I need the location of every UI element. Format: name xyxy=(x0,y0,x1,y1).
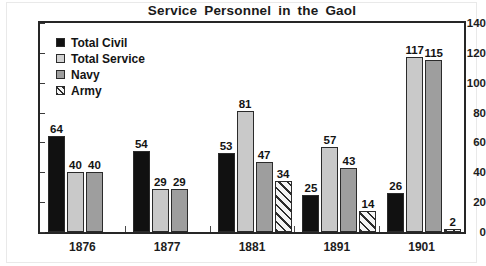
plot-area: 6440405429295381473425574314261171152 To… xyxy=(38,21,466,234)
bar-navy-1891: 43 xyxy=(340,168,357,232)
bar-value-label: 29 xyxy=(173,176,186,188)
y-axis-tick-mark xyxy=(40,172,45,173)
x-axis-category-label: 1901 xyxy=(408,240,435,254)
bar-navy-1901: 115 xyxy=(425,60,442,232)
bar-value-label: 53 xyxy=(220,140,233,152)
bar-navy-1876: 40 xyxy=(86,172,103,232)
y-axis-tick-mark xyxy=(40,142,45,143)
legend-item-navy: Navy xyxy=(56,67,145,82)
x-axis-separator xyxy=(210,226,211,232)
bar-army-1891: 14 xyxy=(359,211,376,232)
bar-value-label: 14 xyxy=(361,198,374,210)
bar-total-civil-1901: 26 xyxy=(387,193,404,232)
x-axis-separator xyxy=(379,226,380,232)
bar-value-label: 40 xyxy=(88,159,101,171)
y-axis-tick-mark xyxy=(40,53,45,54)
bar-total-civil-1891: 25 xyxy=(302,195,319,232)
x-axis-category-label: 1876 xyxy=(69,240,96,254)
bar-navy-1877: 29 xyxy=(171,189,188,232)
bar-value-label: 47 xyxy=(258,149,271,161)
bar-value-label: 57 xyxy=(323,134,336,146)
bar-value-label: 2 xyxy=(449,216,455,228)
legend-swatch-army xyxy=(56,86,65,95)
x-axis-category-label: 1891 xyxy=(323,240,350,254)
bar-value-label: 40 xyxy=(69,159,82,171)
legend-item-total-civil: Total Civil xyxy=(56,35,145,50)
bar-total-service-1881: 81 xyxy=(237,111,254,232)
bar-value-label: 26 xyxy=(389,180,402,192)
y-axis-tick-mark xyxy=(40,232,45,233)
x-axis-separator xyxy=(125,226,126,232)
bar-total-service-1901: 117 xyxy=(406,57,423,232)
bar-value-label: 29 xyxy=(154,176,167,188)
chart-title: Service Personnel in the Gaol xyxy=(38,3,466,18)
chart-legend: Total CivilTotal ServiceNavyArmy xyxy=(56,35,145,99)
legend-item-total-service: Total Service xyxy=(56,51,145,66)
bar-value-label: 81 xyxy=(239,98,252,110)
y-axis-tick-mark xyxy=(40,113,45,114)
x-axis-category-label: 1877 xyxy=(154,240,181,254)
bar-value-label: 25 xyxy=(304,182,317,194)
legend-swatch-navy xyxy=(56,70,65,79)
legend-swatch-total-service xyxy=(56,54,65,63)
bar-value-label: 34 xyxy=(277,168,290,180)
y-axis-tick-mark xyxy=(40,23,45,24)
bar-value-label: 43 xyxy=(342,155,355,167)
legend-item-army: Army xyxy=(56,83,145,98)
plot-inner: 6440405429295381473425574314261171152 To… xyxy=(40,23,464,232)
bar-total-civil-1877: 54 xyxy=(133,151,150,232)
y-axis-tick-mark xyxy=(40,202,45,203)
bar-value-label: 117 xyxy=(405,44,424,56)
bar-value-label: 64 xyxy=(50,123,63,135)
bar-total-service-1891: 57 xyxy=(321,147,338,232)
bar-value-label: 115 xyxy=(424,47,443,59)
legend-swatch-total-civil xyxy=(56,38,65,47)
bar-total-civil-1881: 53 xyxy=(218,153,235,232)
bar-total-service-1877: 29 xyxy=(152,189,169,232)
legend-label: Navy xyxy=(71,68,100,82)
legend-label: Total Civil xyxy=(71,36,127,50)
bar-value-label: 54 xyxy=(135,138,148,150)
bar-army-1901: 2 xyxy=(444,229,461,232)
x-axis-category-label: 1881 xyxy=(239,240,266,254)
x-axis-separator xyxy=(294,226,295,232)
y-axis-tick-mark xyxy=(40,83,45,84)
bar-army-1881: 34 xyxy=(275,181,292,232)
bar-total-service-1876: 40 xyxy=(67,172,84,232)
chart-figure: Service Personnel in the Gaol 0204060801… xyxy=(0,0,486,266)
bar-navy-1881: 47 xyxy=(256,162,273,232)
bar-total-civil-1876: 64 xyxy=(48,136,65,232)
legend-label: Total Service xyxy=(71,52,145,66)
legend-label: Army xyxy=(71,84,102,98)
